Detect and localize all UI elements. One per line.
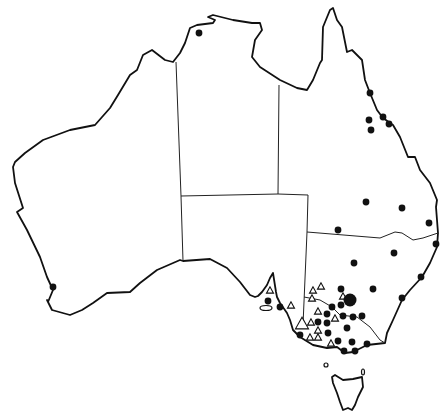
australia-map: Australia distribution map bbox=[0, 0, 446, 418]
filled-circle-marker bbox=[366, 117, 373, 124]
map-canvas bbox=[0, 0, 446, 418]
filled-circle-marker bbox=[335, 338, 342, 345]
filled-circle-marker bbox=[426, 220, 433, 227]
filled-circle-marker bbox=[363, 199, 370, 206]
filled-circle-marker bbox=[367, 90, 374, 97]
filled-circle-marker bbox=[359, 313, 366, 320]
filled-circle-marker bbox=[364, 341, 371, 348]
kangaroo-island bbox=[260, 306, 272, 311]
filled-circle-marker bbox=[350, 314, 357, 321]
filled-circle-marker bbox=[324, 320, 331, 327]
filled-circle-marker bbox=[418, 274, 425, 281]
filled-circle-marker bbox=[325, 330, 332, 337]
map-background bbox=[0, 0, 446, 418]
filled-circle-marker bbox=[380, 114, 387, 121]
filled-circle-marker bbox=[399, 205, 406, 212]
filled-circle-marker bbox=[315, 319, 322, 326]
filled-circle-marker bbox=[265, 298, 272, 305]
filled-circle-marker bbox=[196, 30, 203, 37]
filled-circle-marker bbox=[344, 325, 351, 332]
king-island bbox=[324, 363, 328, 367]
filled-circle-marker bbox=[368, 127, 375, 134]
flinders-island bbox=[362, 369, 365, 375]
filled-circle-marker bbox=[297, 332, 304, 339]
filled-circle-marker bbox=[399, 295, 406, 302]
filled-circle-marker bbox=[324, 311, 331, 318]
filled-circle-marker bbox=[351, 260, 358, 267]
filled-circle-marker bbox=[338, 286, 345, 293]
filled-circle-marker bbox=[352, 348, 359, 355]
filled-circle-marker bbox=[433, 241, 440, 248]
filled-circle-marker bbox=[344, 294, 357, 307]
filled-circle-marker bbox=[341, 348, 348, 355]
filled-circle-marker bbox=[370, 286, 377, 293]
filled-circle-marker bbox=[338, 302, 345, 309]
filled-circle-marker bbox=[391, 250, 398, 257]
filled-circle-marker bbox=[335, 227, 342, 234]
filled-circle-marker bbox=[386, 121, 393, 128]
filled-circle-marker bbox=[277, 304, 284, 311]
filled-circle-marker bbox=[349, 339, 356, 346]
filled-circle-marker bbox=[50, 284, 57, 291]
filled-circle-marker bbox=[329, 304, 336, 311]
filled-circle-marker bbox=[340, 313, 347, 320]
